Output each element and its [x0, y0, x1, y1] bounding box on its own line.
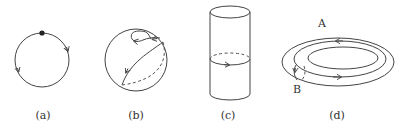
loop-b-back — [302, 66, 305, 80]
arrow-icon-great-circle — [126, 69, 128, 73]
label-a: A — [317, 17, 327, 30]
great-circle-front — [122, 42, 163, 85]
caption-d: (d) — [329, 109, 345, 122]
panel-d-torus: A B (d) — [282, 17, 394, 122]
arrow-icon-small-loop-2 — [153, 39, 158, 40]
caption-b: (b) — [128, 109, 144, 122]
arrow-icon-small-loop — [134, 41, 137, 42]
panel-c-cylinder: (c) — [210, 6, 250, 122]
caption-c: (c) — [221, 109, 236, 122]
circle-loop — [15, 33, 69, 87]
waist-loop-front — [210, 59, 250, 65]
panel-b-sphere: (b) — [105, 29, 167, 122]
label-b: B — [293, 83, 301, 96]
torus-outer — [282, 38, 394, 86]
panel-a-circle: (a) — [15, 30, 69, 122]
waist-loop-back — [210, 53, 250, 59]
topology-loops-figure: (a) (b) (c) A — [0, 0, 411, 130]
sphere-outline — [105, 29, 167, 91]
great-circle-back — [122, 42, 164, 85]
arrow-icon-right — [67, 47, 68, 51]
cylinder-top — [210, 6, 250, 18]
caption-a: (a) — [35, 109, 50, 122]
cylinder-bottom — [210, 94, 250, 100]
base-point-dot — [39, 30, 44, 35]
torus-inner-hole — [308, 47, 378, 69]
